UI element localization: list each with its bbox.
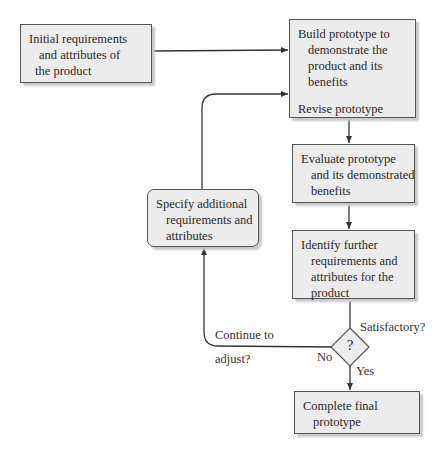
- yes-label: Yes: [356, 364, 374, 379]
- identify-line-4: product: [301, 285, 406, 301]
- identify-line-1: Identify further: [301, 237, 406, 253]
- initial-requirements-box: Initial requirements and attributes of t…: [20, 24, 152, 83]
- specify-requirements-box: Specify additional requirements and attr…: [147, 189, 259, 247]
- build-line-1: Build prototype to: [298, 26, 407, 42]
- build-line-3: product and its: [298, 58, 407, 74]
- complete-final-prototype-box: Complete final prototype: [294, 391, 420, 434]
- satisfactory-label: Satisfactory?: [360, 320, 425, 335]
- complete-line-2: prototype: [303, 414, 411, 430]
- no-label: No: [317, 350, 332, 365]
- evaluate-line-1: Evaluate prototype: [301, 151, 406, 167]
- decision-question-mark: ?: [340, 337, 360, 354]
- specify-line-1: Specify additional: [156, 196, 250, 212]
- evaluate-line-2: and its demonstrated: [301, 167, 406, 183]
- identify-requirements-box: Identify further requirements and attrib…: [292, 230, 415, 299]
- specify-line-2: requirements and: [156, 212, 250, 228]
- identify-line-3: attributes for the: [301, 269, 406, 285]
- initial-line-3: the product: [29, 63, 143, 79]
- initial-line-2: and attributes of: [29, 47, 143, 63]
- identify-line-2: requirements and: [301, 253, 406, 269]
- initial-line-1: Initial requirements: [29, 31, 143, 47]
- build-line-4: benefits: [298, 74, 407, 90]
- evaluate-prototype-box: Evaluate prototype and its demonstrated …: [292, 144, 415, 203]
- build-prototype-box: Build prototype to demonstrate the produ…: [289, 19, 416, 118]
- specify-line-3: attributes: [156, 228, 250, 244]
- complete-line-1: Complete final: [303, 398, 411, 414]
- evaluate-line-3: benefits: [301, 183, 406, 199]
- build-line-2: demonstrate the: [298, 42, 407, 58]
- continue-label-line-2: adjust?: [215, 352, 250, 367]
- revise-prototype-label: Revise prototype: [298, 101, 407, 117]
- continue-label-line-1: Continue to: [215, 328, 274, 343]
